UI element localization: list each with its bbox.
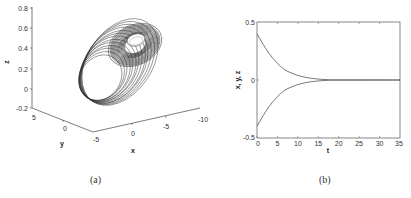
z-axis-label: z bbox=[3, 60, 10, 64]
x-tick-label: 35 bbox=[395, 140, 403, 147]
z-tick-label: 0.4 bbox=[18, 45, 28, 52]
y-tick-label: 0 bbox=[63, 125, 67, 132]
x-tick-label: 10 bbox=[294, 140, 302, 147]
z-tick-label: 0.8 bbox=[18, 5, 28, 12]
x-tick-label: 0 bbox=[256, 140, 260, 147]
z-tick-label: -0.2 bbox=[16, 105, 28, 112]
y-axis-label: x, y, z bbox=[234, 70, 242, 89]
z-tick-label: 0 bbox=[24, 86, 28, 93]
plot-3d: 0.8 0.6 0.4 0.2 0 -0.2 z 5 0 -5 y 0 -5 -… bbox=[3, 4, 208, 154]
figure-canvas: 0.8 0.6 0.4 0.2 0 -0.2 z 5 0 -5 y 0 -5 -… bbox=[0, 0, 411, 198]
x-axis bbox=[93, 108, 200, 132]
x-tick-label: 0 bbox=[131, 130, 135, 137]
x-tick-label: 30 bbox=[376, 140, 384, 147]
x-tick-label: -5 bbox=[163, 123, 169, 130]
y-tick-label: -5 bbox=[93, 136, 99, 143]
y-axis-label: y bbox=[60, 140, 64, 148]
y-tick-label: -0.5 bbox=[243, 134, 255, 141]
caption-b: (b) bbox=[319, 174, 331, 185]
y-tick-label: 0 bbox=[251, 77, 255, 84]
plot-2d: 0 5 10 15 20 25 30 35 0.5 0 -0.5 x, y, z… bbox=[234, 19, 403, 155]
x-axis-label: t bbox=[327, 147, 330, 154]
x-tick-label: -10 bbox=[198, 116, 208, 123]
y-tick-label: 0.5 bbox=[245, 19, 255, 26]
z-ticks: 0.8 0.6 0.4 0.2 0 -0.2 bbox=[16, 5, 32, 112]
x-tick-label: 5 bbox=[275, 140, 279, 147]
trajectory-3d bbox=[66, 4, 173, 119]
x-tick-label: 15 bbox=[314, 140, 322, 147]
x-tick-label: 25 bbox=[355, 140, 363, 147]
series-upper bbox=[257, 34, 400, 80]
caption-a: (a) bbox=[90, 174, 101, 185]
z-tick-label: 0.6 bbox=[18, 25, 28, 32]
x-axis-label: x bbox=[131, 147, 135, 154]
z-tick-label: 0.2 bbox=[18, 66, 28, 73]
series-lower bbox=[257, 80, 400, 126]
y-tick-label: 5 bbox=[32, 114, 36, 121]
x-tick-label: 20 bbox=[335, 140, 343, 147]
